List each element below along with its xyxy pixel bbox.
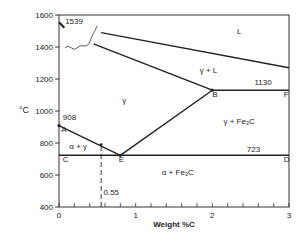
x-tick-label: 3: [287, 211, 292, 220]
annotation: D: [284, 155, 290, 164]
annotation: E: [119, 155, 124, 164]
y-tick-label: 1600: [35, 11, 53, 20]
phase-diagram-svg: 40060080010001200140016000123 1539908113…: [0, 0, 304, 238]
region-label: γ + Fe₃C: [223, 117, 255, 126]
x-tick-label: 0: [57, 211, 62, 220]
labels: 153990811307230.55ABCDEFLγ + Lγγ + Fe₃Cα…: [61, 17, 289, 197]
point-ref: [100, 143, 103, 146]
annotation: F: [284, 90, 289, 99]
annotation: 1539: [65, 17, 83, 26]
annotation: 908: [63, 113, 77, 122]
annotation: C: [63, 155, 69, 164]
curves: [57, 22, 289, 207]
region-label: γ + L: [200, 66, 218, 75]
y-tick-label: 1400: [35, 43, 53, 52]
x-axis-label: Weight %C: [153, 220, 195, 229]
point-a: [57, 124, 60, 127]
region-label: γ: [122, 96, 126, 105]
annotation: 723: [247, 145, 261, 154]
x-tick-label: 1: [133, 211, 138, 220]
y-tick-label: 1000: [35, 107, 53, 116]
phase-diagram: 40060080010001200140016000123 1539908113…: [0, 0, 304, 238]
region-label: α + Fe₃C: [162, 168, 194, 177]
break-mark: [65, 26, 97, 50]
y-tick-label: 1200: [35, 75, 53, 84]
phase-line: [120, 90, 212, 155]
x-tick-label: 2: [210, 211, 215, 220]
y-tick-label: 400: [40, 203, 54, 212]
y-axis-label: °C: [19, 105, 30, 115]
annotation: B: [212, 90, 217, 99]
y-tick-label: 800: [40, 139, 54, 148]
region-label: L: [237, 27, 242, 36]
annotation: 1130: [255, 78, 273, 87]
region-label: α + γ: [69, 142, 87, 151]
annotation: 0.55: [103, 188, 119, 197]
annotation: A: [61, 125, 67, 134]
y-tick-label: 600: [40, 171, 54, 180]
phase-line: [101, 33, 289, 68]
melting-point-marker: [59, 22, 64, 28]
phase-line: [59, 126, 120, 156]
